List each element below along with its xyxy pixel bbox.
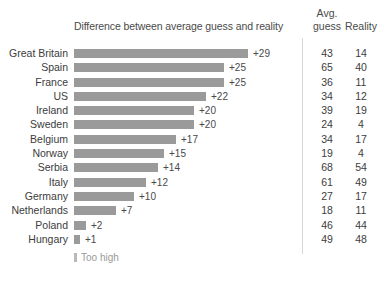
reality-value: 11 bbox=[343, 205, 379, 216]
bar-container bbox=[74, 206, 116, 215]
chart-row: Ireland+203919 bbox=[0, 105, 380, 119]
bar bbox=[74, 235, 80, 244]
reality-value: 11 bbox=[343, 77, 379, 88]
bar bbox=[74, 120, 194, 129]
bar bbox=[74, 78, 224, 87]
avg-guess-value: 19 bbox=[310, 148, 344, 159]
bar bbox=[74, 49, 248, 58]
bar-container bbox=[74, 135, 176, 144]
bar-value-label: +20 bbox=[199, 119, 216, 130]
bar bbox=[74, 135, 176, 144]
avg-guess-value: 43 bbox=[310, 48, 344, 59]
avg-guess-value: 61 bbox=[310, 177, 344, 188]
chart-row: Belgium+173417 bbox=[0, 134, 380, 148]
chart-rows: Great Britain+294314Spain+256540France+2… bbox=[0, 48, 380, 248]
too-high-swatch-icon bbox=[74, 253, 77, 262]
bar-container bbox=[74, 78, 224, 87]
avg-guess-header-line2: guess bbox=[310, 20, 344, 32]
avg-guess-header-line1: Avg. bbox=[310, 7, 344, 19]
avg-guess-value: 68 bbox=[310, 162, 344, 173]
reality-value: 54 bbox=[343, 162, 379, 173]
country-label: Italy bbox=[0, 177, 68, 188]
reality-value: 17 bbox=[343, 191, 379, 202]
legend: Too high bbox=[74, 252, 119, 263]
reality-header: Reality bbox=[343, 20, 379, 32]
bar-value-label: +7 bbox=[121, 205, 132, 216]
avg-guess-value: 39 bbox=[310, 105, 344, 116]
chart-row: Poland+24644 bbox=[0, 220, 380, 234]
chart-row: US+223412 bbox=[0, 91, 380, 105]
country-label: France bbox=[0, 77, 68, 88]
bar-container bbox=[74, 149, 164, 158]
chart-row: Hungary+14948 bbox=[0, 234, 380, 248]
bar bbox=[74, 92, 206, 101]
bar-container bbox=[74, 92, 206, 101]
avg-guess-value: 36 bbox=[310, 77, 344, 88]
avg-guess-value: 18 bbox=[310, 205, 344, 216]
reality-value: 17 bbox=[343, 134, 379, 145]
bar bbox=[74, 178, 146, 187]
country-label: Spain bbox=[0, 62, 68, 73]
country-label: Poland bbox=[0, 220, 68, 231]
avg-guess-value: 27 bbox=[310, 191, 344, 202]
bar-column-header: Difference between average guess and rea… bbox=[74, 20, 283, 32]
chart-row: Germany+102717 bbox=[0, 191, 380, 205]
avg-guess-value: 34 bbox=[310, 134, 344, 145]
bar-value-label: +15 bbox=[169, 148, 186, 159]
chart-row: Spain+256540 bbox=[0, 62, 380, 76]
bar-container bbox=[74, 192, 134, 201]
bar-value-label: +17 bbox=[181, 134, 198, 145]
bar-value-label: +12 bbox=[151, 177, 168, 188]
country-label: Ireland bbox=[0, 105, 68, 116]
legend-label: Too high bbox=[81, 252, 119, 263]
bar-container bbox=[74, 63, 224, 72]
chart-row: Sweden+20244 bbox=[0, 119, 380, 133]
chart-row: Italy+126149 bbox=[0, 177, 380, 191]
avg-guess-value: 49 bbox=[310, 234, 344, 245]
chart-row: Netherlands+71811 bbox=[0, 205, 380, 219]
bar-container bbox=[74, 120, 194, 129]
bar-value-label: +1 bbox=[85, 234, 96, 245]
bar-value-label: +22 bbox=[211, 91, 228, 102]
bar-container bbox=[74, 178, 146, 187]
bar-value-label: +20 bbox=[199, 105, 216, 116]
bar bbox=[74, 149, 164, 158]
bar-value-label: +29 bbox=[253, 48, 270, 59]
avg-guess-value: 34 bbox=[310, 91, 344, 102]
reality-value: 49 bbox=[343, 177, 379, 188]
country-label: US bbox=[0, 91, 68, 102]
bar-value-label: +2 bbox=[91, 220, 102, 231]
bar-value-label: +10 bbox=[139, 191, 156, 202]
bar bbox=[74, 163, 158, 172]
country-label: Hungary bbox=[0, 234, 68, 245]
country-label: Sweden bbox=[0, 119, 68, 130]
bar-container bbox=[74, 163, 158, 172]
bar bbox=[74, 63, 224, 72]
bar bbox=[74, 106, 194, 115]
country-label: Great Britain bbox=[0, 48, 68, 59]
bar-container bbox=[74, 235, 80, 244]
reality-value: 12 bbox=[343, 91, 379, 102]
reality-value: 14 bbox=[343, 48, 379, 59]
reality-value: 44 bbox=[343, 220, 379, 231]
bar bbox=[74, 206, 116, 215]
reality-value: 19 bbox=[343, 105, 379, 116]
chart-row: Great Britain+294314 bbox=[0, 48, 380, 62]
difference-bar-chart: Difference between average guess and rea… bbox=[0, 0, 380, 282]
bar bbox=[74, 192, 134, 201]
avg-guess-value: 46 bbox=[310, 220, 344, 231]
country-label: Belgium bbox=[0, 134, 68, 145]
reality-value: 48 bbox=[343, 234, 379, 245]
country-label: Norway bbox=[0, 148, 68, 159]
chart-row: France+253611 bbox=[0, 77, 380, 91]
avg-guess-value: 65 bbox=[310, 62, 344, 73]
chart-row: Serbia+146854 bbox=[0, 162, 380, 176]
bar-container bbox=[74, 221, 86, 230]
reality-value: 4 bbox=[343, 119, 379, 130]
bar-value-label: +25 bbox=[229, 77, 246, 88]
bar bbox=[74, 221, 86, 230]
avg-guess-value: 24 bbox=[310, 119, 344, 130]
bar-container bbox=[74, 49, 248, 58]
country-label: Germany bbox=[0, 191, 68, 202]
reality-value: 40 bbox=[343, 62, 379, 73]
